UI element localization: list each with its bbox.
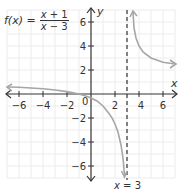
fraction: x + 1 x − 3 xyxy=(40,9,69,32)
function-name: f(x) = xyxy=(4,14,36,27)
x-tick-label: 2 xyxy=(112,100,118,111)
y-axis-label: y xyxy=(96,5,104,18)
denominator: x − 3 xyxy=(40,21,69,32)
origin-label: 0 xyxy=(82,96,88,107)
y-tick-label: −4 xyxy=(71,137,86,148)
asymptote-value: = 3 xyxy=(120,180,141,191)
y-tick-label: 4 xyxy=(80,41,86,52)
y-tick-label: 6 xyxy=(80,17,86,28)
x-tick-label: 4 xyxy=(138,100,144,111)
numerator: x + 1 xyxy=(40,9,69,21)
y-tick-label: 2 xyxy=(80,65,86,76)
y-tick-label: −6 xyxy=(71,161,86,172)
function-formula: f(x) = x + 1 x − 3 xyxy=(4,9,69,32)
denominator-rest: − 3 xyxy=(47,21,68,32)
x-tick-label: −6 xyxy=(12,100,27,111)
asymptote-label: x = 3 xyxy=(114,180,141,191)
x-tick-label: −2 xyxy=(60,100,75,111)
y-tick-label: −2 xyxy=(71,113,86,124)
x-tick-label: −4 xyxy=(36,100,51,111)
numerator-rest: + 1 xyxy=(47,9,68,20)
curve-right-branch xyxy=(130,11,176,68)
x-axis-label: x xyxy=(170,77,178,90)
x-tick-label: 6 xyxy=(160,100,166,111)
